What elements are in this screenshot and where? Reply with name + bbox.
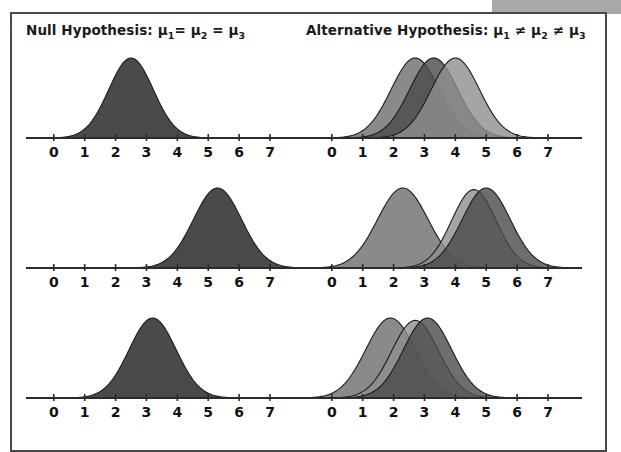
relation-1: =	[174, 22, 185, 38]
mu-1: μ1	[493, 22, 510, 38]
column-title-null: Null Hypothesis: μ1= μ2 = μ3	[26, 22, 245, 41]
density-plot: 01234567	[26, 304, 304, 428]
density-plot: 01234567	[26, 174, 304, 298]
density-curve-mu1	[26, 188, 304, 268]
column-title-null-text: Null Hypothesis:	[26, 22, 153, 38]
mu-3: μ3	[569, 22, 586, 38]
panel-null-row-2: 01234567	[26, 174, 304, 298]
x-axis-tick-label: 7	[543, 274, 553, 290]
figure-frame: Null Hypothesis: μ1= μ2 = μ3 Alternative…	[10, 12, 607, 452]
x-axis-tick-label: 6	[234, 404, 244, 420]
x-axis-tick-label: 5	[203, 274, 213, 290]
mu-3: μ3	[228, 22, 245, 38]
panel-alternative-row-3: 01234567	[304, 304, 582, 428]
density-plot: 01234567	[304, 304, 582, 428]
x-axis-tick-label: 1	[358, 144, 368, 160]
x-axis-tick-label: 6	[512, 144, 522, 160]
x-axis-tick-label: 7	[265, 144, 275, 160]
x-axis-tick-label: 2	[111, 274, 121, 290]
x-axis-tick-label: 3	[420, 144, 430, 160]
mu-1: μ1	[158, 22, 175, 38]
x-axis-tick-label: 7	[543, 144, 553, 160]
mu-2: μ2	[531, 22, 548, 38]
density-curve-mu1	[26, 318, 304, 398]
panel-null-row-1: 01234567	[26, 44, 304, 168]
density-curve-mu1	[26, 58, 304, 138]
x-axis-tick-label: 1	[358, 404, 368, 420]
x-axis-tick-label: 4	[172, 274, 182, 290]
x-axis-tick-label: 3	[420, 274, 430, 290]
x-axis-tick-label: 2	[389, 274, 399, 290]
x-axis-tick-label: 5	[481, 404, 491, 420]
mu-2: μ2	[191, 22, 208, 38]
x-axis-tick-label: 3	[142, 404, 152, 420]
x-axis-tick-label: 1	[80, 274, 90, 290]
x-axis-tick-label: 2	[389, 144, 399, 160]
x-axis-tick-label: 3	[142, 274, 152, 290]
column-title-alternative-text: Alternative Hypothesis:	[306, 22, 488, 38]
x-axis-tick-label: 5	[481, 274, 491, 290]
x-axis-tick-label: 0	[327, 144, 337, 160]
panel-alternative-row-1: 01234567	[304, 44, 582, 168]
x-axis-tick-label: 1	[80, 144, 90, 160]
x-axis-tick-label: 4	[450, 274, 460, 290]
density-plot: 01234567	[304, 174, 582, 298]
x-axis-tick-label: 3	[142, 144, 152, 160]
x-axis-tick-label: 0	[327, 404, 337, 420]
column-title-alternative: Alternative Hypothesis: μ1 ≠ μ2 ≠ μ3	[306, 22, 586, 41]
x-axis-tick-label: 4	[450, 404, 460, 420]
panel-null-row-3: 01234567	[26, 304, 304, 428]
x-axis-tick-label: 5	[203, 144, 213, 160]
x-axis-tick-label: 0	[49, 144, 59, 160]
x-axis-tick-label: 7	[265, 404, 275, 420]
panel-alternative-row-2: 01234567	[304, 174, 582, 298]
x-axis-tick-label: 4	[172, 404, 182, 420]
x-axis-tick-label: 2	[389, 404, 399, 420]
x-axis-tick-label: 7	[265, 274, 275, 290]
x-axis-tick-label: 4	[450, 144, 460, 160]
x-axis-tick-label: 6	[234, 144, 244, 160]
x-axis-tick-label: 0	[327, 274, 337, 290]
x-axis-tick-label: 1	[80, 404, 90, 420]
x-axis-tick-label: 3	[420, 404, 430, 420]
x-axis-tick-label: 6	[234, 274, 244, 290]
x-axis-tick-label: 6	[512, 404, 522, 420]
x-axis-tick-label: 2	[111, 144, 121, 160]
density-curve-mu3	[304, 188, 582, 268]
x-axis-tick-label: 7	[543, 404, 553, 420]
relation-1: ≠	[515, 22, 526, 38]
x-axis-tick-label: 0	[49, 274, 59, 290]
x-axis-tick-label: 6	[512, 274, 522, 290]
density-plot: 01234567	[26, 44, 304, 168]
x-axis-tick-label: 2	[111, 404, 121, 420]
x-axis-tick-label: 5	[203, 404, 213, 420]
density-curve-mu3	[304, 58, 582, 138]
relation-2: ≠	[553, 22, 564, 38]
relation-2: =	[212, 22, 223, 38]
density-plot: 01234567	[304, 44, 582, 168]
x-axis-tick-label: 5	[481, 144, 491, 160]
x-axis-tick-label: 0	[49, 404, 59, 420]
x-axis-tick-label: 4	[172, 144, 182, 160]
x-axis-tick-label: 1	[358, 274, 368, 290]
